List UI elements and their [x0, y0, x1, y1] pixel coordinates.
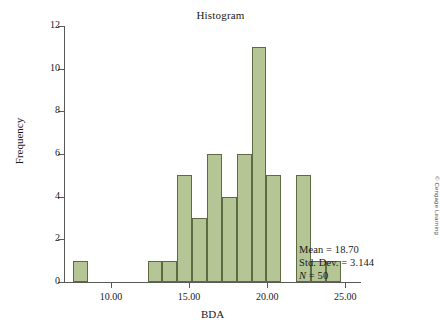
x-tick-label: 10.00 [81, 291, 141, 302]
x-axis-title: BDA [64, 308, 361, 320]
n-symbol: N [299, 270, 306, 281]
x-tick-label: 20.00 [237, 291, 297, 302]
y-tick-label: 4 [20, 190, 60, 201]
x-tick-mark [189, 283, 190, 288]
y-axis-line [64, 26, 65, 283]
std-dev-text: Std. Dev. = 3.144 [299, 256, 374, 269]
sample-size-text: N = 50 [299, 269, 374, 282]
histogram-bar [177, 175, 192, 282]
histogram-figure: Histogram 024681012 10.0015.0020.0025.00… [0, 0, 441, 335]
x-tick-mark [345, 283, 346, 288]
histogram-bar [73, 261, 88, 282]
y-tick-label: 12 [20, 19, 60, 30]
histogram-bar [162, 261, 177, 282]
histogram-bar [222, 197, 237, 282]
mean-text: Mean = 18.70 [299, 243, 374, 256]
y-tick-label: 8 [20, 104, 60, 115]
x-tick-mark [267, 283, 268, 288]
histogram-bar [192, 218, 207, 282]
copyright-notice: © Cengage Learning [434, 176, 440, 235]
y-tick-label: 10 [20, 62, 60, 73]
histogram-bar [252, 47, 267, 282]
y-tick-label: 0 [20, 275, 60, 286]
x-tick-mark [111, 283, 112, 288]
histogram-bar [148, 261, 163, 282]
x-tick-label: 15.00 [159, 291, 219, 302]
histogram-bar [237, 154, 252, 282]
y-tick-label: 6 [20, 147, 60, 158]
plot-area: 024681012 10.0015.0020.0025.00 BDA Frequ… [0, 0, 441, 335]
y-axis-title: Frequency [13, 101, 25, 181]
y-tick-label: 2 [20, 232, 60, 243]
histogram-bar [207, 154, 222, 282]
statistics-annotation: Mean = 18.70 Std. Dev. = 3.144 N = 50 [299, 243, 374, 282]
x-axis-line [64, 282, 361, 283]
n-value: = 50 [309, 270, 328, 281]
histogram-bar [266, 175, 281, 282]
x-tick-label: 25.00 [315, 291, 375, 302]
